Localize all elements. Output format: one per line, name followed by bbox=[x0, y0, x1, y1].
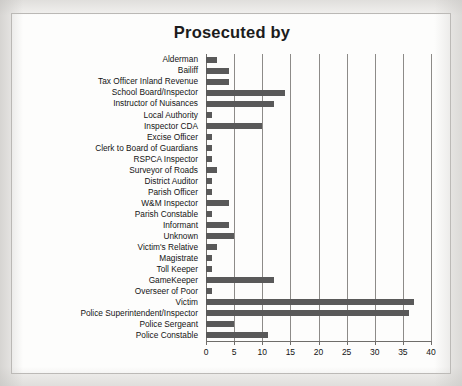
bar bbox=[206, 288, 212, 294]
x-tick-20 bbox=[319, 341, 320, 345]
x-tick-5 bbox=[234, 341, 235, 345]
y-axis-label: Victim's Relative bbox=[20, 242, 202, 253]
x-tick-35 bbox=[403, 341, 404, 345]
y-axis-label: GameKeeper bbox=[20, 275, 202, 286]
y-axis-category-labels: AldermanBailiffTax Officer Inland Revenu… bbox=[20, 54, 202, 341]
bar-row bbox=[206, 175, 431, 186]
y-axis-label: Toll Keeper bbox=[20, 264, 202, 275]
bar bbox=[206, 211, 212, 217]
y-axis-label: Tax Officer Inland Revenue bbox=[20, 76, 202, 87]
x-tick-10 bbox=[262, 341, 263, 345]
y-axis-label: Parish Officer bbox=[20, 186, 202, 197]
bar-row bbox=[206, 297, 431, 308]
x-tick-label-20: 20 bbox=[307, 347, 331, 357]
bar-row bbox=[206, 308, 431, 319]
bar bbox=[206, 79, 229, 85]
bar-row bbox=[206, 120, 431, 131]
y-axis-label: Local Authority bbox=[20, 109, 202, 120]
bar bbox=[206, 90, 285, 96]
bar bbox=[206, 101, 274, 107]
y-axis-label: Overseer of Poor bbox=[20, 286, 202, 297]
bar-row bbox=[206, 54, 431, 65]
x-tick-label-30: 30 bbox=[363, 347, 387, 357]
bar-row bbox=[206, 98, 431, 109]
bar-row bbox=[206, 219, 431, 230]
x-tick-30 bbox=[375, 341, 376, 345]
x-tick-40 bbox=[431, 341, 432, 345]
y-axis-label: Bailiff bbox=[20, 65, 202, 76]
x-tick-0 bbox=[206, 341, 207, 345]
bar-series bbox=[206, 54, 431, 341]
y-axis-label: Alderman bbox=[20, 54, 202, 65]
bar bbox=[206, 310, 409, 316]
bar bbox=[206, 321, 234, 327]
chart-title: Prosecuted by bbox=[12, 23, 452, 42]
y-axis-label: Instructor of Nuisances bbox=[20, 98, 202, 109]
y-axis-label: Surveyor of Roads bbox=[20, 164, 202, 175]
bar bbox=[206, 134, 212, 140]
y-axis-label: Informant bbox=[20, 219, 202, 230]
chart-frame: Prosecuted by AldermanBailiffTax Officer… bbox=[11, 13, 451, 374]
bar-row bbox=[206, 76, 431, 87]
bar bbox=[206, 68, 229, 74]
x-tick-25 bbox=[347, 341, 348, 345]
y-axis-label: Police Superintendent/Inspector bbox=[20, 308, 202, 319]
bar-row bbox=[206, 164, 431, 175]
scanned-page: Prosecuted by AldermanBailiffTax Officer… bbox=[0, 0, 462, 386]
bar bbox=[206, 123, 262, 129]
bar bbox=[206, 156, 212, 162]
bar bbox=[206, 233, 234, 239]
x-tick-label-5: 5 bbox=[222, 347, 246, 357]
bar-row bbox=[206, 109, 431, 120]
x-tick-label-35: 35 bbox=[391, 347, 415, 357]
bar-row bbox=[206, 197, 431, 208]
y-axis-label: Parish Constable bbox=[20, 208, 202, 219]
y-axis-label: Inspector CDA bbox=[20, 120, 202, 131]
bar bbox=[206, 167, 217, 173]
bar bbox=[206, 222, 229, 228]
y-axis-label: RSPCA Inspector bbox=[20, 153, 202, 164]
x-tick-label-25: 25 bbox=[335, 347, 359, 357]
x-tick-label-15: 15 bbox=[278, 347, 302, 357]
bar-row bbox=[206, 231, 431, 242]
bar-row bbox=[206, 186, 431, 197]
bar-row bbox=[206, 142, 431, 153]
bar bbox=[206, 112, 212, 118]
x-tick-label-10: 10 bbox=[250, 347, 274, 357]
bar bbox=[206, 266, 212, 272]
y-axis-label: Clerk to Board of Guardians bbox=[20, 142, 202, 153]
x-tick-label-0: 0 bbox=[194, 347, 218, 357]
bar bbox=[206, 189, 212, 195]
y-axis-label: Magistrate bbox=[20, 253, 202, 264]
bar-row bbox=[206, 319, 431, 330]
x-tick-label-40: 40 bbox=[419, 347, 443, 357]
bar-row bbox=[206, 253, 431, 264]
y-axis-label: Victim bbox=[20, 297, 202, 308]
bar bbox=[206, 178, 212, 184]
y-axis-label: Police Sergeant bbox=[20, 319, 202, 330]
bar-row bbox=[206, 242, 431, 253]
bar bbox=[206, 255, 212, 261]
bar bbox=[206, 277, 274, 283]
y-axis-label: Unknown bbox=[20, 231, 202, 242]
bar-row bbox=[206, 264, 431, 275]
bar bbox=[206, 57, 217, 63]
bar bbox=[206, 145, 212, 151]
bar-row bbox=[206, 65, 431, 76]
bar bbox=[206, 332, 268, 338]
y-axis-label: Police Constable bbox=[20, 330, 202, 341]
bar-row bbox=[206, 275, 431, 286]
bar-row bbox=[206, 330, 431, 341]
y-axis-label: District Auditor bbox=[20, 175, 202, 186]
bar-row bbox=[206, 87, 431, 98]
y-axis-label: School Board/Inspector bbox=[20, 87, 202, 98]
bar-row bbox=[206, 286, 431, 297]
bar bbox=[206, 244, 217, 250]
plot-area bbox=[206, 54, 431, 341]
bar-row bbox=[206, 208, 431, 219]
bar bbox=[206, 200, 229, 206]
gridline-40 bbox=[431, 54, 432, 341]
x-tick-15 bbox=[290, 341, 291, 345]
y-axis-label: Excise Officer bbox=[20, 131, 202, 142]
y-axis-label: W&M Inspector bbox=[20, 197, 202, 208]
